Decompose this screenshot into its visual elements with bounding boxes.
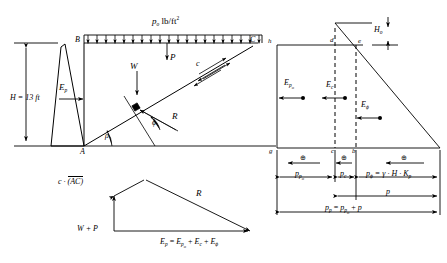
- polygon-cohesion-label: c · (AC): [58, 178, 83, 186]
- failure-plane-AC: [84, 46, 253, 146]
- cohesion-label-c: c: [196, 60, 200, 68]
- pressure-label-p: p: [386, 188, 390, 196]
- polygon-AC-term: (AC): [68, 176, 84, 186]
- polygon-equation: Ep = Epo + Ec + Eϕ: [160, 238, 218, 250]
- point-label-C: C: [250, 36, 255, 44]
- polygon-weight-label: W + P: [77, 225, 98, 233]
- angle-label-rho: ρ: [105, 132, 109, 140]
- plus-marker-pc: ⊕: [341, 155, 347, 162]
- force-label-Ephi: Eϕ: [361, 101, 369, 111]
- force-label-Ep: Ep: [59, 83, 67, 94]
- point-label-A: A: [80, 148, 85, 156]
- pressure-label-pp-total: pp = ppo + p: [325, 204, 362, 216]
- retaining-wall-body: [51, 44, 84, 146]
- plus-marker-pphi: ⊕: [401, 155, 407, 162]
- diagram-vector-layer: [0, 0, 447, 263]
- polygon-resultant-label: R: [196, 189, 202, 198]
- force-polygon-vectors: [114, 180, 250, 231]
- R-force-construction: [107, 96, 178, 146]
- pressure-dashed-lines: [335, 28, 356, 148]
- vertex-label-b: b: [352, 148, 356, 155]
- Epo-resultant-arrow: [279, 96, 305, 100]
- vertex-label-d: d: [330, 37, 334, 44]
- figure-canvas: H = 13 ft po lb/ft2 B C A Ep W P R c ρ ϕ…: [0, 0, 447, 263]
- Ephi-resultant-arrow: [357, 116, 382, 120]
- force-label-P: P: [170, 53, 176, 62]
- plus-marker-ppo: ⊕: [300, 155, 306, 162]
- vertex-label-g: g: [269, 148, 273, 155]
- surcharge-arrows: [88, 35, 259, 44]
- surcharge-units: lb/ft: [162, 16, 177, 26]
- pressure-label-pphi: pϕ = γ · H · Kp: [366, 170, 411, 180]
- point-label-B: B: [75, 36, 80, 44]
- angle-label-phi: ϕ: [152, 119, 156, 127]
- vertex-label-e: e: [358, 38, 361, 45]
- height-label: H = 13 ft: [10, 94, 40, 102]
- vertex-label-c: c: [331, 148, 334, 155]
- force-label-W: W: [130, 62, 138, 71]
- force-label-R: R: [172, 112, 178, 121]
- force-label-Epo: Epo: [284, 79, 294, 91]
- surcharge-load-label: po lb/ft2: [152, 16, 179, 28]
- depth-label-H0: Ho: [374, 26, 383, 36]
- surcharge-exponent: 2: [177, 15, 180, 21]
- pressure-label-ppo: ppo: [295, 170, 304, 182]
- force-label-Ec: Ec: [326, 81, 333, 91]
- pressure-label-pc: pc: [340, 170, 346, 180]
- vertex-label-h: h: [268, 38, 272, 45]
